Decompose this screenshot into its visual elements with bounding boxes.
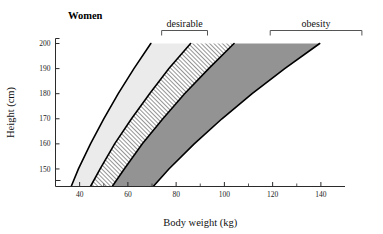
chart-svg: 150160170180190200406080100120140Body we…	[0, 0, 383, 234]
annotation-obesity: obesity	[270, 18, 362, 36]
bracket-desirable	[162, 31, 208, 36]
y-tick-label: 170	[39, 114, 51, 123]
weight-for-height-chart: 150160170180190200406080100120140Body we…	[0, 0, 383, 234]
chart-title: Women	[68, 10, 103, 21]
x-tick-label: 120	[267, 190, 279, 199]
y-tick-label: 160	[39, 139, 51, 148]
x-axis-title: Body weight (kg)	[163, 217, 238, 229]
band-group	[71, 44, 319, 187]
x-tick-label: 140	[315, 190, 327, 199]
bracket-obesity	[270, 31, 362, 36]
y-tick-label: 150	[39, 165, 51, 174]
y-tick-label: 180	[39, 89, 51, 98]
annotation-desirable: desirable	[162, 18, 208, 36]
x-tick-label: 80	[172, 190, 180, 199]
label-obesity: obesity	[302, 18, 331, 29]
y-axis-title: Height (cm)	[5, 86, 17, 138]
x-tick-label: 40	[76, 190, 84, 199]
x-tick-label: 60	[124, 190, 132, 199]
y-tick-label: 190	[39, 64, 51, 73]
y-tick-label: 200	[39, 39, 51, 48]
label-desirable: desirable	[167, 18, 204, 29]
x-tick-label: 100	[219, 190, 231, 199]
